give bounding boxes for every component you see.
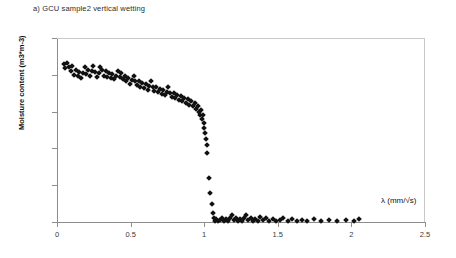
x-tick: [278, 222, 279, 227]
plot-frame: [57, 38, 425, 222]
x-tick: [204, 222, 205, 227]
x-axis-title: λ (mm/√s): [381, 196, 417, 205]
y-tick: [52, 148, 57, 149]
y-axis-title: Moisture content (m3*m-3): [17, 35, 26, 130]
x-tick-label: 1.5: [273, 230, 283, 239]
x-tick-label: 2.5: [420, 230, 430, 239]
y-tick: [52, 112, 57, 113]
y-tick: [52, 185, 57, 186]
x-tick-label: 2: [349, 230, 353, 239]
x-tick: [57, 222, 58, 227]
x-tick-label: 0: [55, 230, 59, 239]
chart-title: a) GCU sample2 vertical wetting: [33, 4, 145, 13]
x-tick: [131, 222, 132, 227]
data-point: [318, 218, 324, 224]
chart-container: a) GCU sample2 vertical wetting Moisture…: [0, 0, 456, 258]
x-tick-label: 0.5: [125, 230, 135, 239]
x-tick: [425, 222, 426, 227]
y-tick: [52, 75, 57, 76]
y-tick: [52, 38, 57, 39]
x-tick-label: 1: [202, 230, 206, 239]
